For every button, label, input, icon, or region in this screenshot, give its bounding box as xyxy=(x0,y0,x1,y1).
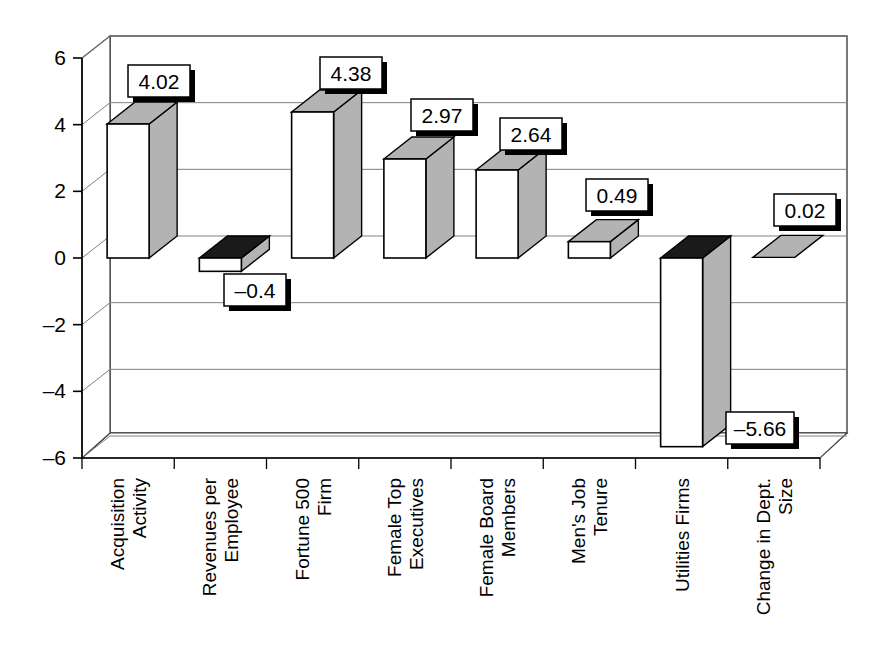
bar-front-face xyxy=(568,242,610,258)
category-label-4: Female BoardMembers xyxy=(476,478,519,597)
bar-6 xyxy=(661,236,731,447)
x-axis-ticks xyxy=(82,458,820,469)
category-label-line: Firm xyxy=(314,478,335,516)
y-axis-tick-label: 4 xyxy=(54,113,66,136)
value-label-text: 4.38 xyxy=(331,62,372,85)
y-axis-ticks xyxy=(73,58,82,458)
category-label-line: Men's Job xyxy=(568,478,589,564)
category-label-2: Fortune 500Firm xyxy=(292,478,335,580)
category-label-line: Executives xyxy=(406,478,427,570)
value-label-6: –5.66 xyxy=(726,412,799,449)
y-axis-tick-label: 2 xyxy=(54,179,66,202)
category-label-5: Men's JobTenure xyxy=(568,478,611,564)
value-label-3: 2.97 xyxy=(411,99,478,136)
y-axis-tick-label: 0 xyxy=(54,246,66,269)
category-label-3: Female TopExecutives xyxy=(384,478,427,577)
bar-front-face xyxy=(292,112,334,258)
value-label-text: 4.02 xyxy=(139,70,180,93)
bar-front-face xyxy=(107,124,149,258)
y-axis-tick-labels: 6420–2–4–6 xyxy=(43,46,67,469)
category-label-line: Female Board xyxy=(476,478,497,597)
bar-3 xyxy=(384,137,454,258)
category-label-line: Acquisition xyxy=(107,478,128,570)
chart-container: 6420–2–4–6 4.02–0.44.382.972.640.49–5.66… xyxy=(0,0,883,650)
value-label-4: 2.64 xyxy=(500,118,567,155)
bar-front-face xyxy=(476,170,518,258)
category-label-line: Utilities Firms xyxy=(672,478,693,592)
y-axis-tick-label: –6 xyxy=(43,446,66,469)
bar-4 xyxy=(476,148,546,258)
bar-0 xyxy=(107,102,177,258)
y-axis-tick-label: 6 xyxy=(54,46,66,69)
category-label-line: Change in Dept. xyxy=(753,478,774,615)
category-label-line: Female Top xyxy=(384,478,405,577)
bar-2 xyxy=(292,90,362,258)
category-label-1: Revenues perEmployee xyxy=(199,477,242,596)
value-label-text: 0.02 xyxy=(785,199,826,222)
y-axis-tick-label: –2 xyxy=(43,313,66,336)
category-label-line: Fortune 500 xyxy=(292,478,313,580)
value-label-2: 4.38 xyxy=(320,57,387,94)
bar-front-face xyxy=(199,258,241,271)
category-label-7: Change in Dept.Size xyxy=(753,478,796,615)
value-label-1: –0.4 xyxy=(224,274,291,311)
value-label-text: –5.66 xyxy=(734,417,787,440)
bar-side-face xyxy=(149,102,177,258)
category-label-line: Revenues per xyxy=(199,477,220,596)
value-label-0: 4.02 xyxy=(128,65,195,102)
category-label-line: Size xyxy=(775,478,796,515)
value-label-7: 0.02 xyxy=(774,194,841,231)
bar-side-face xyxy=(334,90,362,258)
value-label-text: 0.49 xyxy=(597,184,638,207)
value-label-5: 0.49 xyxy=(586,179,653,216)
value-label-text: –0.4 xyxy=(235,279,276,302)
value-label-text: 2.64 xyxy=(511,123,552,146)
bar-front-face xyxy=(384,159,426,258)
bar-chart-3d: 6420–2–4–6 4.02–0.44.382.972.640.49–5.66… xyxy=(0,0,883,650)
bar-front-face xyxy=(661,258,703,447)
value-label-text: 2.97 xyxy=(422,104,463,127)
category-label-line: Employee xyxy=(221,478,242,563)
y-axis-tick-label: –4 xyxy=(43,379,67,402)
category-label-line: Tenure xyxy=(590,478,611,536)
category-label-line: Members xyxy=(498,478,519,557)
category-label-line: Activity xyxy=(129,478,150,539)
x-axis-category-labels: AcquisitionActivityRevenues perEmployeeF… xyxy=(107,477,796,615)
category-label-6: Utilities Firms xyxy=(672,478,693,592)
category-label-0: AcquisitionActivity xyxy=(107,478,150,570)
